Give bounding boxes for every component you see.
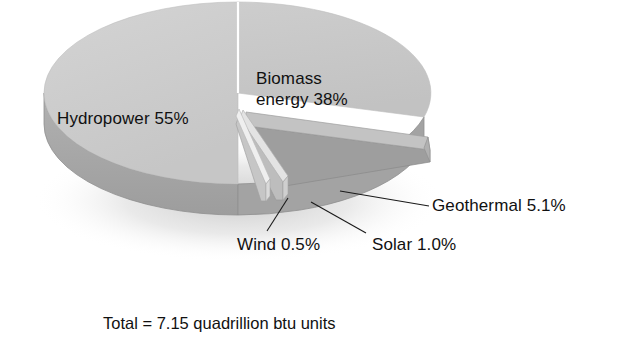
slice-label-biomass-line2: energy 38% [256,90,348,109]
renewable-energy-pie-figure: Hydropower 55% Biomassenergy 38% Geother… [0,0,633,359]
chart-caption: Total = 7.15 quadrillion btu units (= 7.… [103,271,336,359]
slice-label-biomass: Biomassenergy 38% [256,68,348,110]
slice-label-wind: Wind 0.5% [237,234,320,255]
slice-label-geothermal: Geothermal 5.1% [432,195,566,216]
slice-label-hydropower: Hydropower 55% [57,108,189,129]
caption-total-line: Total = 7.15 quadrillion btu units [103,313,336,334]
slice-label-biomass-line1: Biomass [256,69,322,88]
slice-label-solar: Solar 1.0% [372,234,456,255]
